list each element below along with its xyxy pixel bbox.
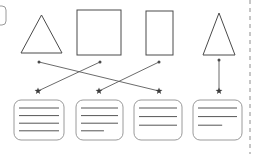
divider-layer (0, 0, 257, 154)
diagram-canvas (0, 0, 257, 154)
